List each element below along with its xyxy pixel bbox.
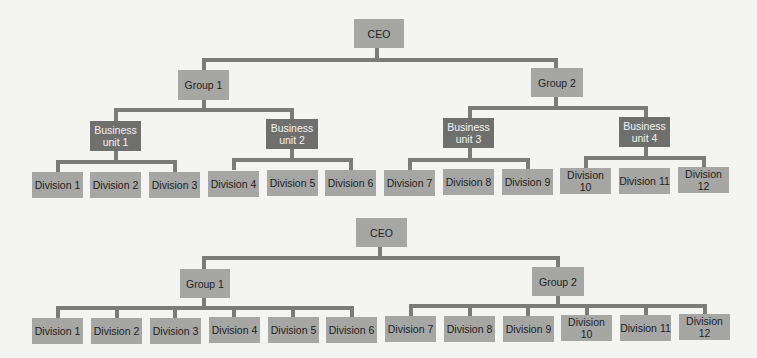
division-box: Division 8: [443, 169, 494, 195]
division-box: Division 12: [679, 314, 730, 340]
division-label: Division 12: [679, 315, 730, 339]
group-label: Group 1: [186, 278, 224, 290]
division-label: Division 1: [35, 179, 81, 191]
business-unit-label: Business unit 3: [443, 121, 494, 145]
connector: [56, 160, 177, 164]
division-label: Division 9: [506, 323, 552, 335]
connector: [173, 306, 177, 318]
connector: [556, 256, 560, 267]
division-box: Division 4: [208, 171, 259, 197]
division-box: Division 11: [620, 315, 671, 341]
connector: [526, 304, 530, 316]
connector: [56, 306, 354, 310]
connector: [349, 158, 353, 170]
division-box: Division 5: [268, 317, 319, 343]
division-label: Division 11: [620, 322, 671, 334]
group-2-box: Group 2: [531, 68, 583, 97]
division-box: Division 1: [32, 172, 83, 198]
division-label: Division 7: [387, 177, 433, 189]
connector: [468, 106, 648, 110]
group-1-box: Group 1: [180, 269, 230, 298]
division-label: Division 6: [329, 324, 375, 336]
connector: [408, 158, 530, 162]
division-box: Division 6: [326, 317, 377, 343]
division-label: Division 9: [505, 176, 551, 188]
org-chart-diagram: CEO Group 1 Group 2 Business unit 1 Busi…: [0, 0, 757, 358]
division-box: Division 10: [560, 168, 611, 194]
division-label: Division 10: [561, 316, 612, 340]
division-box: Division 5: [267, 170, 318, 196]
connector: [173, 160, 177, 172]
division-box: Division 9: [502, 169, 553, 195]
connector: [56, 160, 60, 172]
division-label: Division 3: [152, 179, 198, 191]
division-box: Division 12: [678, 167, 729, 193]
division-box: Division 7: [385, 316, 436, 342]
division-box: Division 11: [619, 168, 670, 194]
division-label: Division 4: [211, 178, 257, 190]
division-label: Division 3: [153, 325, 199, 337]
business-unit-label: Business unit 4: [619, 120, 670, 144]
division-box: Division 8: [444, 316, 495, 342]
division-box: Division 1: [32, 318, 83, 344]
connector: [202, 256, 206, 269]
connector: [114, 108, 294, 112]
business-unit-2-box: Business unit 2: [266, 119, 318, 149]
division-box: Division 10: [561, 315, 612, 341]
connector: [202, 58, 557, 62]
division-box: Division 4: [209, 317, 260, 343]
division-label: Division 2: [94, 325, 140, 337]
division-box: Division 3: [149, 172, 200, 198]
division-label: Division 7: [388, 323, 434, 335]
connector: [584, 156, 588, 168]
division-box: Division 3: [150, 318, 201, 344]
business-unit-label: Business unit 1: [90, 124, 141, 148]
division-box: Division 7: [384, 170, 435, 196]
business-unit-1-box: Business unit 1: [90, 121, 141, 151]
business-unit-4-box: Business unit 4: [619, 117, 670, 147]
division-label: Division 12: [678, 168, 729, 192]
connector: [115, 306, 119, 318]
group-label: Group 2: [539, 276, 577, 288]
ceo-box: CEO: [356, 218, 407, 247]
group-2-box: Group 2: [532, 267, 584, 296]
connector: [584, 156, 706, 160]
connector: [409, 304, 707, 308]
group-1-box: Group 1: [178, 70, 229, 100]
division-label: Division 5: [271, 324, 317, 336]
connector: [232, 158, 353, 162]
business-unit-3-box: Business unit 3: [443, 118, 494, 148]
connector: [232, 158, 236, 170]
division-label: Division 6: [328, 177, 374, 189]
group-label: Group 2: [538, 77, 576, 89]
division-label: Division 10: [560, 169, 611, 193]
division-label: Division 5: [270, 177, 316, 189]
division-label: Division 1: [35, 325, 81, 337]
division-label: Division 2: [93, 179, 139, 191]
ceo-label: CEO: [368, 28, 391, 40]
connector: [114, 108, 118, 122]
division-label: Division 4: [212, 324, 258, 336]
division-box: Division 2: [90, 172, 141, 198]
connector: [408, 158, 412, 170]
connector: [468, 304, 472, 316]
connector: [56, 306, 60, 318]
ceo-label: CEO: [370, 227, 393, 239]
connector: [409, 304, 413, 316]
division-label: Division 8: [446, 176, 492, 188]
group-label: Group 1: [185, 79, 223, 91]
division-box: Division 2: [91, 318, 142, 344]
business-unit-label: Business unit 2: [266, 122, 318, 146]
division-box: Division 6: [325, 170, 376, 196]
division-label: Division 8: [447, 323, 493, 335]
connector: [202, 256, 560, 260]
division-box: Division 9: [503, 316, 554, 342]
division-label: Division 11: [619, 175, 670, 187]
ceo-box: CEO: [354, 19, 404, 48]
